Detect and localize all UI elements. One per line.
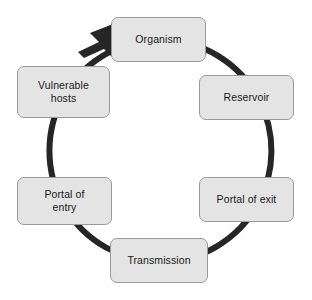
- node-transmission-label: Transmission: [127, 254, 190, 267]
- node-organism-label: Organism: [135, 33, 181, 46]
- node-transmission[interactable]: Transmission: [110, 238, 208, 283]
- node-portal-of-entry[interactable]: Portal of entry: [17, 177, 112, 225]
- node-vulnerable-hosts[interactable]: Vulnerable hosts: [17, 66, 110, 118]
- node-organism[interactable]: Organism: [111, 17, 206, 62]
- node-portal-of-exit[interactable]: Portal of exit: [199, 177, 294, 222]
- cycle-diagram: Organism Reservoir Portal of exit Transm…: [0, 0, 312, 300]
- node-reservoir[interactable]: Reservoir: [199, 75, 294, 120]
- node-vulnerable-hosts-label: Vulnerable hosts: [38, 79, 89, 105]
- node-reservoir-label: Reservoir: [224, 91, 270, 104]
- node-portal-of-entry-label: Portal of entry: [44, 188, 84, 214]
- node-portal-of-exit-label: Portal of exit: [217, 193, 277, 206]
